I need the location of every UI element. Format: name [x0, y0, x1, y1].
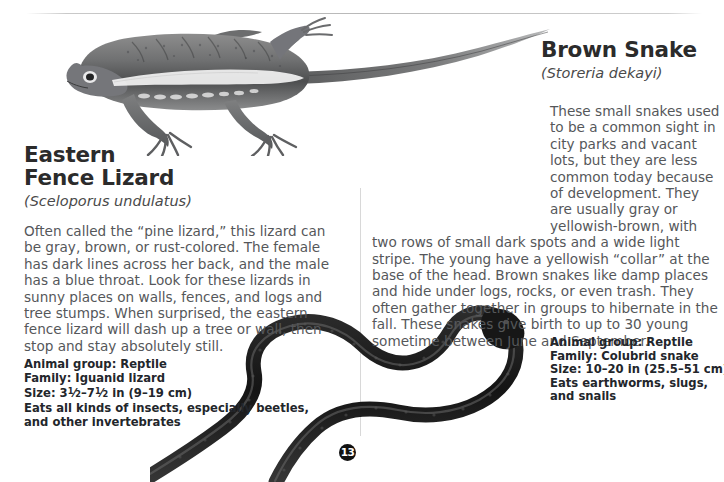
lizard-size-frac1-numerator: 1 [68, 386, 74, 396]
lizard-facts: Animal group: Reptile Family: Iguanid li… [24, 358, 354, 429]
snake-scientific-name: (Storeria dekayi) [541, 64, 724, 82]
lizard-size-suffix: in (9–19 cm) [108, 387, 192, 401]
lizard-common-name-line2: Fence Lizard [24, 165, 174, 190]
lizard-size-frac2-numerator: 1 [95, 386, 101, 396]
lizard-family: Family: Iguanid lizard [24, 372, 354, 386]
snake-facts: Animal group: Reptile Family: Colubrid s… [550, 336, 724, 404]
eastern-fence-lizard-entry: Eastern Fence Lizard (Sceloporus undulat… [24, 143, 354, 429]
snake-animal-group: Animal group: Reptile [550, 336, 724, 350]
snake-diet-line2: and snails [550, 390, 724, 404]
lizard-size-mid: –7 [81, 387, 95, 401]
lizard-description: Often called the “pine lizard,” this liz… [24, 223, 342, 354]
snake-size: Size: 10–20 in (25.5–51 cm) [550, 363, 724, 377]
snake-common-name: Brown Snake [541, 38, 724, 61]
snake-description-wrapper: These small snakes used to be a common s… [372, 103, 720, 349]
snake-family: Family: Colubrid snake [550, 350, 724, 364]
lizard-common-name-line1: Eastern [24, 142, 115, 167]
field-guide-page: Eastern Fence Lizard (Sceloporus undulat… [0, 0, 724, 482]
brown-snake-description-block: These small snakes used to be a common s… [372, 103, 720, 349]
lizard-scientific-name: (Sceloporus undulatus) [24, 192, 354, 210]
lizard-size-prefix: Size: 3 [24, 387, 68, 401]
lizard-diet-line1: Eats all kinds of insects, especially be… [24, 402, 354, 416]
lizard-animal-group: Animal group: Reptile [24, 358, 354, 372]
brown-snake-heading: Brown Snake (Storeria dekayi) [541, 38, 724, 82]
lizard-diet-line2: and other invertebrates [24, 416, 354, 430]
lizard-size: Size: 31⁄2–71⁄2 in (9–19 cm) [24, 385, 354, 402]
snake-art-text-wrap-spacer [372, 103, 550, 218]
page-number-badge: 13 [339, 444, 356, 461]
snake-diet-line1: Eats earthworms, slugs, [550, 377, 724, 391]
lizard-common-name: Eastern Fence Lizard [24, 143, 354, 189]
